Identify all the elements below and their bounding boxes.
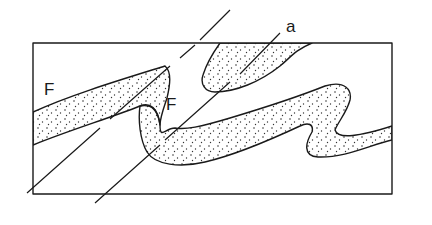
folded-layer-center [139, 84, 392, 165]
label-axial-trace: a [286, 17, 296, 36]
label-fold-left: F [44, 80, 54, 99]
fold-diagram: F F a [0, 0, 432, 225]
folded-layer-upper-lobe [202, 43, 312, 92]
folded-layer [33, 43, 392, 165]
label-fold-center: F [166, 95, 176, 114]
